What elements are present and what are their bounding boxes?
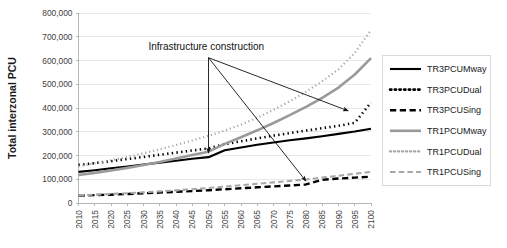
chart-container: 0100,000200,000300,000400,000500,000600,… — [0, 0, 507, 248]
x-tick-label: 2030 — [139, 210, 149, 229]
legend-label-tr1pcumway: TR1PCUMway — [427, 126, 487, 136]
y-tick-labels: 0100,000200,000300,000400,000500,000600,… — [42, 8, 73, 208]
x-tick-label: 2010 — [74, 210, 84, 229]
legend-label-tr1pcudual: TR1PCUDual — [427, 147, 482, 157]
x-tick-label: 2065 — [252, 210, 262, 229]
series-paths — [79, 30, 372, 196]
y-tick-label: 400,000 — [42, 103, 73, 113]
y-axis-title: Total interzonal PCU — [6, 57, 18, 159]
x-tick-label: 2090 — [334, 210, 344, 229]
y-tick-label: 800,000 — [42, 8, 73, 18]
x-tick-label: 2080 — [301, 210, 311, 229]
x-tick-label: 2060 — [236, 210, 246, 229]
legend-label-tr3pcumway: TR3PCUMway — [427, 64, 487, 74]
annotation-label: Infrastructure construction — [149, 41, 265, 52]
y-tick-label: 700,000 — [42, 32, 73, 42]
x-tick-label: 2015 — [90, 210, 100, 229]
legend-label-tr3pcusing: TR3PCUSing — [427, 105, 481, 115]
x-tick-label: 2025 — [122, 210, 132, 229]
x-tick-label: 2020 — [106, 210, 116, 229]
x-tick-label: 2035 — [155, 210, 165, 229]
y-tick-label: 600,000 — [42, 56, 73, 66]
y-tick-label: 100,000 — [42, 174, 73, 184]
x-tick-labels: 2010201520202025203020352040204520502055… — [74, 210, 377, 229]
x-tick-label: 2050 — [204, 210, 214, 229]
line-chart: 0100,000200,000300,000400,000500,000600,… — [0, 0, 507, 248]
x-tick-label: 2055 — [220, 210, 230, 229]
x-tick-label: 2045 — [187, 210, 197, 229]
x-tick-label: 2095 — [350, 210, 360, 229]
y-tick-label: 500,000 — [42, 79, 73, 89]
y-tick-label: 300,000 — [42, 127, 73, 137]
series-line-tr1pcusing — [79, 172, 372, 196]
x-tick-label: 2070 — [269, 210, 279, 229]
series-line-tr3pcumway — [79, 129, 372, 172]
x-tick-label: 2085 — [317, 210, 327, 229]
y-tick-label: 0 — [68, 198, 73, 208]
x-tick-label: 2040 — [171, 210, 181, 229]
y-tick-label: 200,000 — [42, 151, 73, 161]
legend-box — [383, 56, 491, 186]
legend: TR3PCUMwayTR3PCUDualTR3PCUSingTR1PCUMway… — [383, 56, 491, 186]
legend-label-tr1pcusing: TR1PCUSing — [427, 167, 481, 177]
x-tick-label: 2075 — [285, 210, 295, 229]
x-tick-label: 2100 — [366, 210, 376, 229]
legend-label-tr3pcudual: TR3PCUDual — [427, 85, 482, 95]
